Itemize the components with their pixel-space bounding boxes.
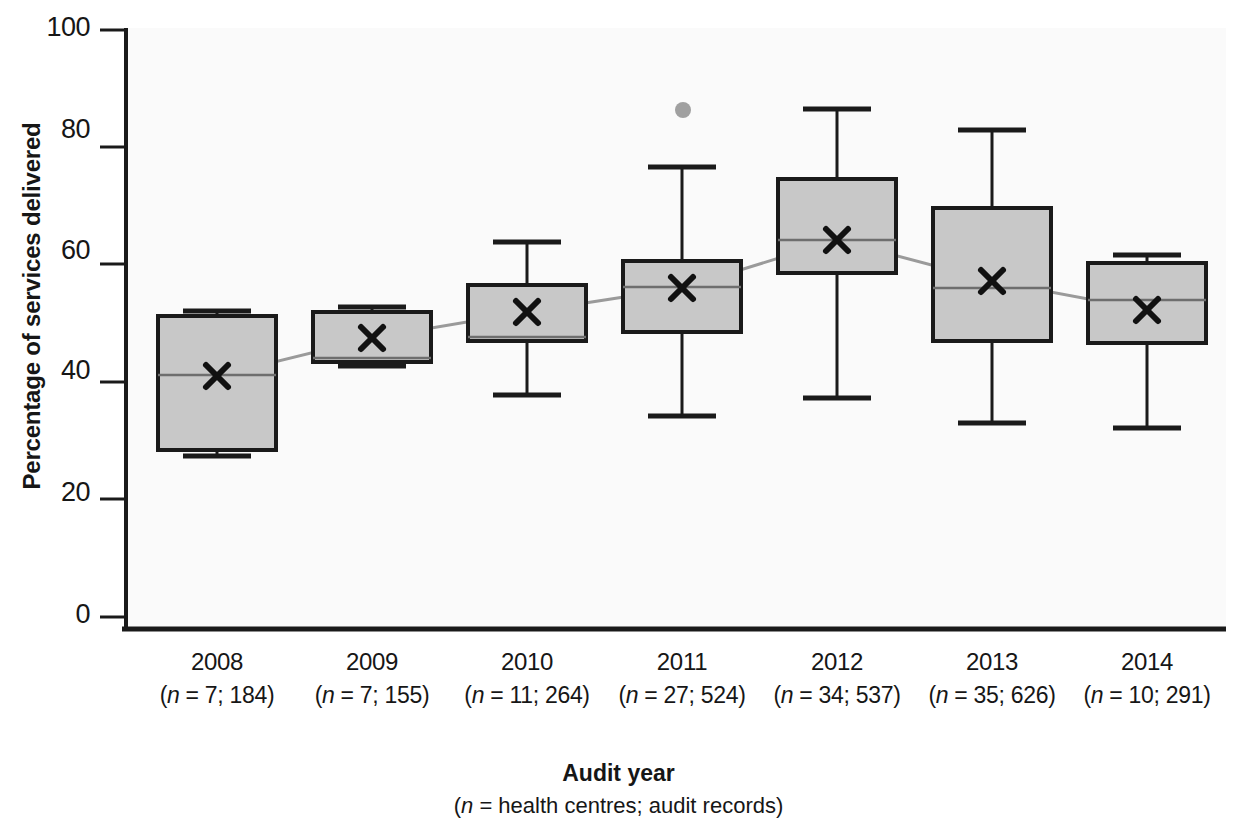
box-iqr [158, 316, 276, 450]
box-2008[interactable] [158, 311, 276, 456]
x-tick-year: 2008 [137, 645, 297, 679]
box-iqr [778, 179, 896, 273]
x-tick-2010: 2010 (n = 11; 264) [447, 645, 607, 712]
x-tick-year: 2014 [1067, 645, 1227, 679]
x-tick-year: 2013 [912, 645, 1072, 679]
box-2009[interactable] [313, 307, 431, 366]
x-tick-2014: 2014 (n = 10; 291) [1067, 645, 1227, 712]
x-tick-n: (n = 34; 537) [757, 679, 917, 712]
x-tick-n: (n = 27; 524) [602, 679, 762, 712]
x-tick-2012: 2012 (n = 34; 537) [757, 645, 917, 712]
x-tick-year: 2011 [602, 645, 762, 679]
y-axis-ticks [100, 30, 126, 617]
x-axis-title-main: Audit year [0, 757, 1237, 790]
x-axis-title: Audit year (n = health centres; audit re… [0, 757, 1237, 822]
x-tick-n: (n = 7; 155) [292, 679, 452, 712]
box-iqr [933, 208, 1051, 341]
x-tick-n: (n = 11; 264) [447, 679, 607, 712]
x-axis-title-sub: (n = health centres; audit records) [0, 790, 1237, 822]
x-tick-2011: 2011 (n = 27; 524) [602, 645, 762, 712]
x-tick-year: 2010 [447, 645, 607, 679]
x-tick-year: 2012 [757, 645, 917, 679]
x-tick-year: 2009 [292, 645, 452, 679]
outlier-point [675, 102, 691, 118]
x-tick-2008: 2008 (n = 7; 184) [137, 645, 297, 712]
x-tick-2009: 2009 (n = 7; 155) [292, 645, 452, 712]
x-tick-n: (n = 10; 291) [1067, 679, 1227, 712]
x-tick-n: (n = 35; 626) [912, 679, 1072, 712]
x-tick-2013: 2013 (n = 35; 626) [912, 645, 1072, 712]
x-tick-n: (n = 7; 184) [137, 679, 297, 712]
box-iqr [1088, 263, 1206, 343]
box-plot-figure: Percentage of services delivered 100 80 … [0, 0, 1237, 822]
box-iqr [623, 261, 741, 332]
